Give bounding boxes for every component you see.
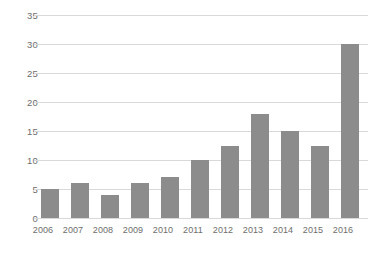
bar-2010[interactable] (161, 177, 179, 218)
bar-2009[interactable] (131, 183, 149, 218)
bar-2007[interactable] (71, 183, 89, 218)
bar-2015[interactable] (311, 146, 329, 219)
bar-chart: 35 30 25 20 15 10 5 0 (0, 0, 378, 260)
bar-2013[interactable] (251, 114, 269, 218)
plot-area (34, 15, 368, 218)
bar-2014[interactable] (281, 131, 299, 218)
bar-2006[interactable] (41, 189, 59, 218)
bar-2011[interactable] (191, 160, 209, 218)
bar-2012[interactable] (221, 146, 239, 219)
bar-2016[interactable] (341, 44, 359, 218)
gridline-0 (34, 218, 368, 219)
x-axis-tick-label-2016: 2016 (325, 226, 361, 235)
bars (34, 15, 368, 218)
bar-2008[interactable] (101, 195, 119, 218)
